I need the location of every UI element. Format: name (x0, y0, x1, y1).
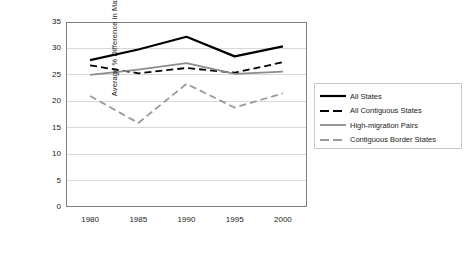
legend-label: Contiguous Border States (350, 135, 436, 144)
legend-swatch-icon (320, 135, 346, 145)
legend-swatch-icon (320, 106, 346, 116)
legend-label: High-migration Pairs (350, 121, 418, 130)
y-axis-title: Average % Difference in Matched Pairs (108, 0, 122, 122)
plot-border (67, 23, 307, 207)
line-chart: Average % Difference in Matched Pairs 05… (0, 0, 469, 258)
y-tick-5: 5 (41, 177, 61, 185)
legend-item-all-states[interactable]: All States (320, 89, 382, 103)
x-tick-1980: 1980 (70, 216, 110, 224)
legend-swatch-icon (320, 120, 346, 130)
legend-swatch-icon (320, 91, 346, 101)
y-tick-15: 15 (41, 124, 61, 132)
y-tick-25: 25 (41, 71, 61, 79)
legend-item-all-contiguous-states[interactable]: All Contiguous States (320, 104, 422, 118)
y-tick-10: 10 (41, 150, 61, 158)
y-tick-30: 30 (41, 44, 61, 52)
legend-item-high-migration-pairs[interactable]: High-migration Pairs (320, 118, 418, 132)
legend-label: All Contiguous States (350, 106, 422, 115)
y-tick-20: 20 (41, 97, 61, 105)
y-tick-0: 0 (41, 203, 61, 211)
x-tick-1985: 1985 (118, 216, 158, 224)
chart-legend: All StatesAll Contiguous StatesHigh-migr… (314, 83, 462, 149)
x-tick-1995: 1995 (215, 216, 255, 224)
legend-label: All States (350, 92, 382, 101)
x-tick-2000: 2000 (263, 216, 303, 224)
y-tick-35: 35 (41, 18, 61, 26)
x-tick-1990: 1990 (167, 216, 207, 224)
legend-item-contiguous-border-states[interactable]: Contiguous Border States (320, 133, 436, 147)
